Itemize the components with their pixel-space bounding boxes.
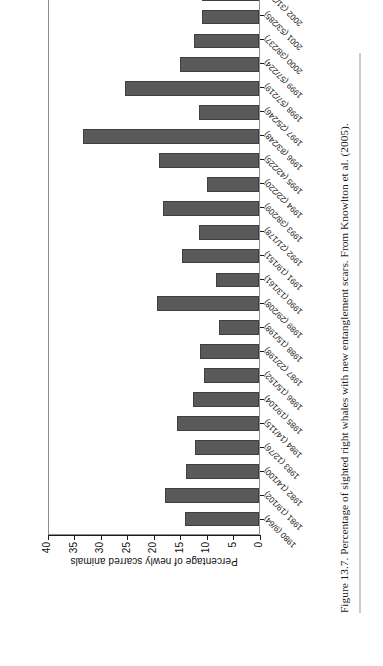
y-axis: 0510152025303540 Percentage of newly sca… (48, 535, 260, 587)
bar (219, 320, 259, 335)
bar-slot (49, 220, 259, 244)
bar-slot (49, 268, 259, 292)
bar-slot (49, 435, 259, 459)
bar (216, 272, 259, 287)
bar-slot (49, 124, 259, 148)
x-axis-category-labels: 1980 (9/64)1981 (19/102)1982 (14/100)198… (260, 0, 342, 535)
bar (194, 33, 259, 48)
bar-slot (49, 5, 259, 29)
bar (156, 296, 258, 311)
bar-chart-figure: 0510152025303540 Percentage of newly sca… (42, 0, 342, 587)
bar-slot (49, 316, 259, 340)
bar (163, 201, 259, 216)
bar (176, 416, 258, 431)
y-tick-mark (259, 535, 260, 540)
caption-rule (359, 53, 360, 613)
y-tick-mark (127, 535, 128, 540)
bar-slot (49, 483, 259, 507)
bar (198, 224, 258, 239)
x-label-slot: 1982 (14/100) (260, 460, 342, 484)
rotated-figure-wrapper: 0510152025303540 Percentage of newly sca… (0, 0, 383, 666)
bar-slot (49, 292, 259, 316)
bar-slot (49, 411, 259, 435)
bar-slot (49, 387, 259, 411)
x-label-slot: 2002 (31/286) (260, 0, 342, 4)
bar-slot (49, 77, 259, 101)
bar (164, 487, 259, 502)
bar (202, 9, 259, 24)
y-tick-mark (100, 535, 101, 540)
y-axis-label: Percentage of newly scarred animals (24, 555, 284, 566)
bar (185, 464, 259, 479)
bar (200, 344, 259, 359)
bar (182, 248, 259, 263)
bar-slot (49, 459, 259, 483)
bar (203, 368, 258, 383)
figure-caption: Figure 13.7. Percentage of sighted right… (338, 53, 350, 613)
plot-area (48, 0, 260, 535)
bar (159, 153, 259, 168)
y-tick-mark (153, 535, 154, 540)
bar (193, 392, 259, 407)
bar (83, 129, 259, 144)
bar-slot (49, 148, 259, 172)
bar (199, 105, 259, 120)
y-tick-mark (206, 535, 207, 540)
bar-series (49, 0, 259, 534)
bar-slot (49, 196, 259, 220)
y-tick-mark (74, 535, 75, 540)
bar (206, 177, 259, 192)
bar (180, 57, 259, 72)
y-tick-mark (47, 535, 48, 540)
bar (194, 440, 258, 455)
bar-slot (49, 172, 259, 196)
bar-slot (49, 244, 259, 268)
bar-slot (49, 29, 259, 53)
bar-slot (49, 100, 259, 124)
bar-slot (49, 363, 259, 387)
bar-slot (49, 0, 259, 5)
figure-page: 0510152025303540 Percentage of newly sca… (0, 0, 383, 666)
y-tick-mark (233, 535, 234, 540)
bar (125, 81, 259, 96)
bar (184, 511, 258, 526)
bar-slot (49, 507, 259, 531)
bar-slot (49, 339, 259, 363)
bar-slot (49, 53, 259, 77)
y-tick-mark (180, 535, 181, 540)
